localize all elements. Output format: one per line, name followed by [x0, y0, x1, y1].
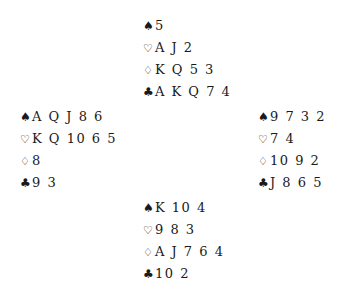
heart-icon: ♡ — [20, 129, 32, 151]
east-diamonds: ♢10 9 2 — [258, 150, 326, 172]
club-icon: ♣ — [143, 81, 155, 103]
north-hearts: ♡A J 2 — [143, 37, 231, 59]
diamond-icon: ♢ — [20, 151, 32, 173]
heart-icon: ♡ — [143, 38, 155, 60]
east-spades-cards: 9 7 3 2 — [270, 109, 326, 124]
south-clubs: ♣10 2 — [143, 263, 224, 285]
west-hand: ♠A Q J 8 6 ♡K Q 10 6 5 ♢8 ♣9 3 — [20, 106, 117, 194]
east-clubs-cards: J 8 6 5 — [270, 175, 323, 190]
south-spades-cards: K 10 4 — [155, 200, 207, 215]
south-diamonds-cards: A J 7 6 4 — [155, 244, 224, 259]
west-hearts-cards: K Q 10 6 5 — [32, 131, 117, 146]
spade-icon: ♠ — [258, 106, 270, 128]
north-spades: ♠5 — [143, 15, 231, 37]
west-clubs: ♣9 3 — [20, 172, 117, 194]
west-spades-cards: A Q J 8 6 — [32, 109, 104, 124]
south-diamonds: ♢A J 7 6 4 — [143, 241, 224, 263]
east-clubs: ♣J 8 6 5 — [258, 172, 326, 194]
north-diamonds-cards: K Q 5 3 — [155, 62, 215, 77]
club-icon: ♣ — [20, 172, 32, 194]
west-diamonds: ♢8 — [20, 150, 117, 172]
spade-icon: ♠ — [143, 197, 155, 219]
north-hearts-cards: A J 2 — [155, 40, 194, 55]
east-spades: ♠9 7 3 2 — [258, 106, 326, 128]
south-spades: ♠K 10 4 — [143, 197, 224, 219]
north-spades-cards: 5 — [155, 18, 165, 33]
spade-icon: ♠ — [20, 106, 32, 128]
diamond-icon: ♢ — [258, 151, 270, 173]
south-hearts-cards: 9 8 3 — [155, 222, 196, 237]
east-hearts: ♡7 4 — [258, 128, 326, 150]
west-clubs-cards: 9 3 — [32, 175, 57, 190]
west-diamonds-cards: 8 — [32, 153, 42, 168]
north-hand: ♠5 ♡A J 2 ♢K Q 5 3 ♣A K Q 7 4 — [143, 15, 231, 103]
club-icon: ♣ — [143, 263, 155, 285]
north-diamonds: ♢K Q 5 3 — [143, 59, 231, 81]
north-clubs-cards: A K Q 7 4 — [155, 84, 231, 99]
east-hand: ♠9 7 3 2 ♡7 4 ♢10 9 2 ♣J 8 6 5 — [258, 106, 326, 194]
diamond-icon: ♢ — [143, 242, 155, 264]
diamond-icon: ♢ — [143, 60, 155, 82]
south-hand: ♠K 10 4 ♡9 8 3 ♢A J 7 6 4 ♣10 2 — [143, 197, 224, 285]
spade-icon: ♠ — [143, 15, 155, 37]
west-spades: ♠A Q J 8 6 — [20, 106, 117, 128]
club-icon: ♣ — [258, 172, 270, 194]
west-hearts: ♡K Q 10 6 5 — [20, 128, 117, 150]
east-hearts-cards: 7 4 — [270, 131, 295, 146]
north-clubs: ♣A K Q 7 4 — [143, 81, 231, 103]
south-hearts: ♡9 8 3 — [143, 219, 224, 241]
heart-icon: ♡ — [258, 129, 270, 151]
heart-icon: ♡ — [143, 220, 155, 242]
east-diamonds-cards: 10 9 2 — [270, 153, 320, 168]
south-clubs-cards: 10 2 — [155, 266, 190, 281]
